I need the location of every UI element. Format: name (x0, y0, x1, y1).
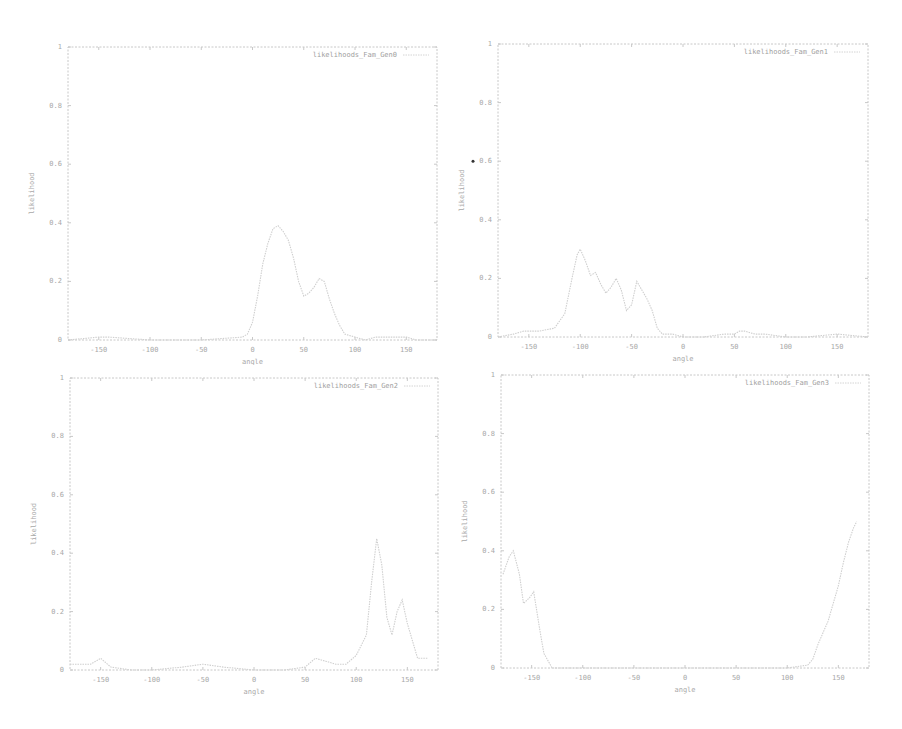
chart-panel-top-right: -150-100-5005010015000.20.40.60.81anglel… (451, 0, 902, 365)
y-tick-label: 0.8 (479, 99, 492, 107)
x-axis-label: angle (243, 688, 264, 696)
chart-svg: -150-100-5005010015000.20.40.60.81anglel… (0, 365, 451, 729)
x-tick-label: 50 (300, 346, 308, 354)
y-tick-label: 0 (58, 336, 62, 344)
y-tick-label: 0 (488, 333, 492, 341)
x-axis-label: angle (242, 358, 263, 365)
x-tick-label: -150 (523, 674, 540, 682)
x-tick-label: 0 (252, 676, 256, 684)
data-series-line (70, 539, 428, 670)
x-tick-label: 150 (831, 343, 844, 351)
data-series-line (503, 522, 857, 669)
y-tick-label: 0 (60, 666, 64, 674)
x-tick-label: -100 (143, 676, 160, 684)
y-tick-label: 0.8 (49, 102, 62, 110)
y-tick-label: 0.4 (49, 219, 62, 227)
y-tick-label: 1 (491, 371, 495, 379)
y-tick-label: 1 (58, 43, 62, 51)
plot-frame (498, 44, 868, 337)
legend-label: likelihoods_Fam_Gen2 (314, 382, 398, 390)
x-tick-label: 150 (401, 676, 414, 684)
y-tick-label: 0.4 (482, 547, 495, 555)
y-tick-label: 0.6 (479, 157, 492, 165)
x-tick-label: 0 (683, 674, 687, 682)
y-tick-label: 0.2 (482, 605, 495, 613)
x-axis-label: angle (674, 686, 695, 694)
y-tick-label: 0.4 (51, 549, 64, 557)
x-tick-label: 150 (400, 346, 413, 354)
y-tick-label: 0.6 (482, 488, 495, 496)
y-tick-label: 0.2 (479, 274, 492, 282)
x-tick-label: 50 (301, 676, 309, 684)
x-tick-label: -50 (628, 674, 641, 682)
x-tick-label: -50 (195, 346, 208, 354)
data-series-line (68, 226, 437, 340)
x-axis-label: angle (672, 355, 693, 363)
data-series-line (498, 249, 868, 337)
y-tick-label: 0.6 (49, 160, 62, 168)
legend-label: likelihoods_Fam_Gen1 (744, 48, 828, 56)
y-axis-label: likelihood (461, 500, 469, 542)
chart-panel-bottom-left: -150-100-5005010015000.20.40.60.81anglel… (0, 365, 451, 729)
y-tick-label: 0.8 (482, 430, 495, 438)
y-tick-label: 0.4 (479, 216, 492, 224)
y-axis-label: likelihood (28, 172, 36, 214)
x-tick-label: 50 (732, 674, 740, 682)
x-tick-label: 100 (781, 674, 794, 682)
x-tick-label: -150 (90, 346, 107, 354)
chart-svg: -150-100-5005010015000.20.40.60.81anglel… (451, 365, 902, 729)
y-tick-label: 0.6 (51, 491, 64, 499)
y-tick-label: 0.8 (51, 432, 64, 440)
x-tick-label: 100 (779, 343, 792, 351)
x-tick-label: 50 (730, 343, 738, 351)
y-tick-label: 0 (491, 664, 495, 672)
x-tick-label: 100 (350, 676, 363, 684)
marker-dot-icon (472, 160, 475, 163)
x-tick-label: 100 (349, 346, 362, 354)
chart-panel-top-left: -150-100-5005010015000.20.40.60.81anglel… (0, 0, 451, 365)
x-tick-label: 0 (250, 346, 254, 354)
x-tick-label: -100 (574, 674, 591, 682)
plot-frame (70, 378, 438, 670)
y-tick-label: 1 (488, 40, 492, 48)
x-tick-label: -100 (572, 343, 589, 351)
y-axis-label: likelihood (458, 169, 466, 211)
x-tick-label: -150 (520, 343, 537, 351)
y-tick-label: 0.2 (49, 277, 62, 285)
chart-svg: -150-100-5005010015000.20.40.60.81anglel… (0, 0, 451, 365)
legend-label: likelihoods_Fam_Gen0 (313, 51, 397, 59)
x-tick-label: -50 (197, 676, 210, 684)
chart-svg: -150-100-5005010015000.20.40.60.81anglel… (451, 0, 902, 365)
x-tick-label: -150 (92, 676, 109, 684)
y-tick-label: 0.2 (51, 608, 64, 616)
y-axis-label: likelihood (30, 503, 38, 545)
x-tick-label: 150 (832, 674, 845, 682)
y-tick-label: 1 (60, 374, 64, 382)
plot-frame (68, 47, 437, 340)
plot-frame (501, 375, 869, 668)
x-tick-label: -100 (142, 346, 159, 354)
x-tick-label: -50 (625, 343, 638, 351)
legend-label: likelihoods_Fam_Gen3 (745, 379, 829, 387)
chart-panel-bottom-right: -150-100-5005010015000.20.40.60.81anglel… (451, 365, 902, 729)
x-tick-label: 0 (681, 343, 685, 351)
